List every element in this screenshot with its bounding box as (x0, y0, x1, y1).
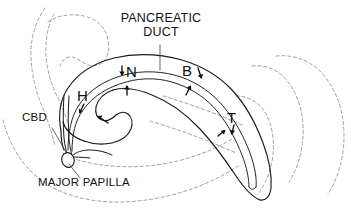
marker-arrow-head-h2 (97, 116, 108, 123)
major-papilla-icon (60, 151, 76, 169)
cbd-label: CBD (22, 111, 47, 123)
duct-wall-upper (68, 72, 256, 187)
pancreatic-duct-label: PANCREATIC DUCT (101, 12, 221, 39)
pancreatic-duct (68, 72, 256, 189)
contour-right-body-edge (236, 96, 273, 195)
contour-diagonal-lower (150, 121, 236, 153)
cbd-duct-junction (72, 150, 112, 156)
marker-arrow-tail-up (218, 130, 226, 136)
contour-stomach-upper-left (31, 8, 55, 146)
pancreas-inferior-border (113, 89, 260, 200)
segment-label-t: T (227, 110, 236, 126)
major-papilla-label: MAJOR PAPILLA (38, 176, 130, 188)
contour-spleen-inner (252, 66, 303, 182)
marker-arrow-body-down (198, 68, 203, 79)
duct-tail-tip (249, 187, 256, 189)
pancreas-diagram: PANCREATIC DUCT CBD MAJOR PAPILLA H N B … (0, 0, 351, 217)
marker-arrow-neck-down (119, 66, 124, 76)
segment-label-h: H (77, 88, 88, 104)
segment-boundary-markers (79, 66, 235, 136)
pancreatic-duct-label-line2: DUCT (101, 26, 221, 40)
contour-duodenal-inner-loop (46, 14, 68, 124)
segment-label-b: B (182, 63, 192, 79)
marker-arrow-neck-up (124, 85, 129, 95)
contour-stomach-fundus (48, 15, 109, 66)
major-papilla-marker (60, 151, 76, 169)
pancreas-head-notch (84, 90, 132, 144)
pancreatic-duct-label-line1: PANCREATIC (101, 12, 221, 26)
segment-label-n: N (126, 64, 137, 80)
contour-spleen-outer (276, 56, 344, 194)
